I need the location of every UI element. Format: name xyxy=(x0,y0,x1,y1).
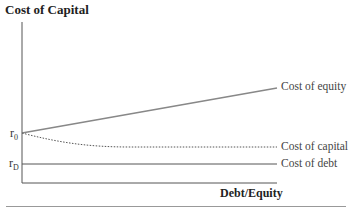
plot-area xyxy=(0,0,352,209)
cost-of-equity-label: Cost of equity xyxy=(281,80,346,92)
cost-of-capital-line xyxy=(22,133,277,147)
cost-of-equity-line xyxy=(22,88,277,133)
bottom-divider xyxy=(6,206,346,207)
x-axis-label: Debt/Equity xyxy=(220,186,283,201)
cost-of-debt-label: Cost of debt xyxy=(281,157,337,169)
cost-of-capital-label: Cost of capital xyxy=(281,140,348,152)
rd-tick-label: rD xyxy=(9,156,19,172)
r0-tick-label: r0 xyxy=(10,126,18,142)
